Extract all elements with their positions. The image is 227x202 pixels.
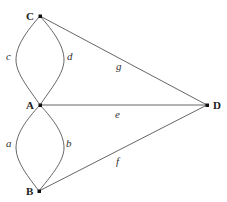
edge-c: [16, 16, 40, 105]
edge-d-label: d: [67, 50, 73, 62]
edge-e-label: e: [115, 108, 120, 120]
edge-g-label: g: [116, 60, 122, 72]
node-d-label: D: [213, 99, 221, 111]
edge-d: [40, 16, 64, 105]
node-a-dot: [39, 104, 43, 108]
node-b-label: B: [26, 185, 34, 197]
edge-b: [39, 105, 64, 191]
edge-a: [16, 105, 40, 191]
graph-diagram: C A B D c d a b g e f: [0, 0, 227, 202]
node-c-dot: [39, 15, 43, 19]
edge-c-label: c: [6, 50, 11, 62]
edge-a-label: a: [6, 137, 12, 149]
node-a-label: A: [26, 99, 34, 111]
edge-b-label: b: [66, 137, 72, 149]
node-b-dot: [38, 190, 42, 194]
edge-g: [40, 16, 207, 105]
node-c-label: C: [26, 10, 34, 22]
node-d-dot: [206, 104, 210, 108]
edge-f-label: f: [116, 155, 121, 167]
